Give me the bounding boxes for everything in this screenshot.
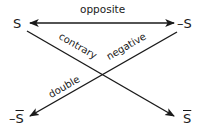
node-s-bar: S xyxy=(183,112,191,125)
label-opposite: opposite xyxy=(80,4,125,14)
node-s: S xyxy=(13,17,21,30)
node-neg-s: –S xyxy=(177,17,192,30)
node-neg-s-bar-symbol: S xyxy=(16,111,24,126)
diagram-edges xyxy=(0,0,204,133)
diagram-canvas: S –S –S S opposite contrary negative dou… xyxy=(0,0,204,133)
node-s-symbol: S xyxy=(13,16,21,31)
edge-negative-double xyxy=(30,32,177,116)
node-s-bar-symbol: S xyxy=(183,111,191,126)
node-neg-s-symbol: S xyxy=(184,16,192,31)
edge-contrary xyxy=(27,31,174,116)
node-neg-s-bar: –S xyxy=(9,112,24,125)
